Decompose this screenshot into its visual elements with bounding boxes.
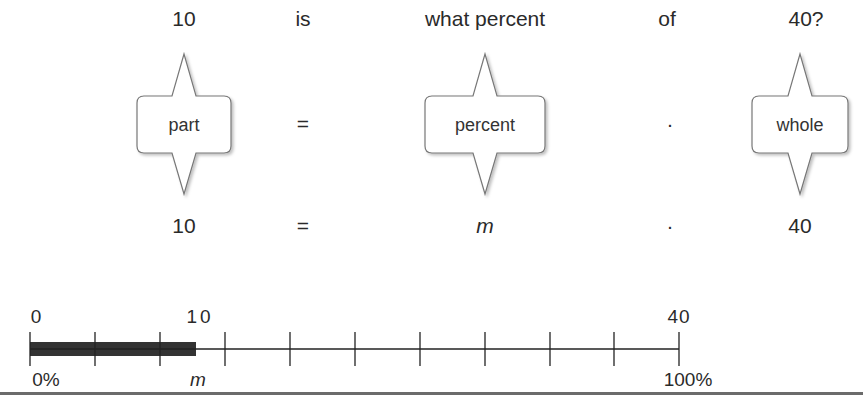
number-line-bottom-start: 0% xyxy=(32,368,59,392)
equation-whole: 40 xyxy=(788,214,811,238)
number-line-bottom-part: m xyxy=(190,368,206,392)
percent-label: percent xyxy=(455,115,515,135)
number-line-bottom-end: 100% xyxy=(664,368,713,392)
number-line-top-end: 40 xyxy=(667,305,690,329)
number-line xyxy=(30,332,679,366)
number-line-top-start: 0 xyxy=(31,305,42,329)
equation-part: 10 xyxy=(172,214,195,238)
equation-times-dot: · xyxy=(667,214,674,238)
callout-shapes xyxy=(0,0,863,395)
equation-equals-sign: = xyxy=(297,214,309,238)
model-equals-sign: = xyxy=(297,112,309,136)
model-times-dot: · xyxy=(667,112,674,136)
equation-variable: m xyxy=(476,214,494,238)
part-label: part xyxy=(168,115,199,135)
number-line-top-part: 10 xyxy=(186,305,213,329)
whole-label: whole xyxy=(776,115,823,135)
